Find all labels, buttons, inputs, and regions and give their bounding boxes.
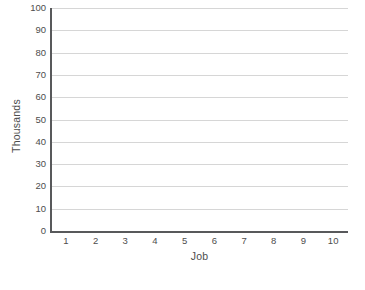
y-axis-line bbox=[50, 8, 52, 232]
gridline bbox=[51, 209, 348, 210]
x-axis-tick-label: 6 bbox=[199, 235, 229, 247]
x-axis-tick-label: 3 bbox=[110, 235, 140, 247]
y-axis-tick-label: 70 bbox=[0, 70, 46, 80]
gridline bbox=[51, 120, 348, 121]
x-axis-tick-label: 9 bbox=[288, 235, 318, 247]
gridline bbox=[51, 97, 348, 98]
x-axis-tick-label: 8 bbox=[259, 235, 289, 247]
y-axis-tick-labels: 0102030405060708090100 bbox=[0, 0, 46, 240]
gridline bbox=[51, 53, 348, 54]
gridline bbox=[51, 8, 348, 9]
chart-container: Thousands 0102030405060708090100 1234567… bbox=[0, 0, 365, 290]
plot-area bbox=[51, 8, 348, 231]
y-axis-tick-label: 50 bbox=[0, 115, 46, 125]
x-axis-tick-label: 1 bbox=[51, 235, 81, 247]
y-axis-tick-label: 20 bbox=[0, 181, 46, 191]
x-axis-tick-label: 5 bbox=[170, 235, 200, 247]
x-axis-tick-label: 7 bbox=[229, 235, 259, 247]
y-axis-tick-label: 0 bbox=[0, 226, 46, 236]
gridline bbox=[51, 186, 348, 187]
y-axis-tick-label: 90 bbox=[0, 25, 46, 35]
x-axis-tick-label: 2 bbox=[81, 235, 111, 247]
gridline bbox=[51, 164, 348, 165]
gridline bbox=[51, 142, 348, 143]
gridline bbox=[51, 30, 348, 31]
y-axis-tick-label: 100 bbox=[0, 3, 46, 13]
y-axis-tick-label: 80 bbox=[0, 48, 46, 58]
y-axis-tick-label: 60 bbox=[0, 92, 46, 102]
y-axis-tick-label: 30 bbox=[0, 159, 46, 169]
x-axis-title: Job bbox=[51, 250, 348, 262]
y-axis-tick-label: 40 bbox=[0, 137, 46, 147]
y-axis-tick-label: 10 bbox=[0, 204, 46, 214]
x-axis-line bbox=[50, 231, 348, 233]
x-axis-tick-label: 10 bbox=[318, 235, 348, 247]
gridline bbox=[51, 75, 348, 76]
x-axis-tick-labels: 12345678910 bbox=[51, 235, 348, 249]
x-axis-tick-label: 4 bbox=[140, 235, 170, 247]
